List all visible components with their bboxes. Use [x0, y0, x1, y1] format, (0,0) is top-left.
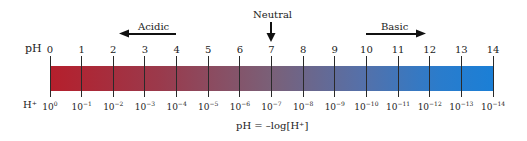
ph-value: 1: [78, 44, 84, 55]
tick-mark: [461, 56, 462, 97]
h-concentration-value: 10−13: [449, 100, 473, 112]
h-concentration-value: 10−1: [71, 100, 91, 112]
h-concentration-value: 10−10: [354, 100, 378, 112]
ph-value: 3: [142, 44, 148, 55]
ph-formula: pH = –log[H⁺]: [236, 121, 308, 131]
h-axis-label: H⁺: [23, 100, 37, 110]
ph-value: 14: [487, 44, 500, 55]
h-concentration-value: 10−8: [293, 100, 313, 112]
tick-mark: [239, 56, 240, 97]
tick-mark: [334, 56, 335, 97]
ph-value: 9: [332, 44, 338, 55]
arrow-left-icon: [119, 29, 129, 38]
ph-value: 12: [423, 44, 436, 55]
ph-value: 13: [455, 44, 468, 55]
h-concentration-value: 10−6: [230, 100, 250, 112]
tick-mark: [208, 56, 209, 97]
h-concentration-value: 10−9: [325, 100, 345, 112]
ph-value: 8: [300, 44, 306, 55]
h-concentration-value: 10−11: [386, 100, 410, 112]
h-concentration-value: 100: [42, 100, 57, 112]
basic-arrow-line: [366, 33, 418, 35]
ph-value: 6: [237, 44, 243, 55]
ph-value: 7: [268, 44, 274, 55]
ph-value: 2: [110, 44, 116, 55]
acidic-label: Acidic: [138, 22, 169, 32]
ph-axis-label: pH: [25, 44, 42, 54]
neutral-label: Neutral: [253, 10, 292, 20]
h-concentration-value: 10−4: [166, 100, 186, 112]
ph-value: 10: [360, 44, 373, 55]
h-concentration-value: 10−14: [481, 100, 505, 112]
tick-mark: [303, 56, 304, 97]
h-concentration-value: 10−3: [135, 100, 155, 112]
tick-mark: [144, 56, 145, 97]
tick-mark: [113, 56, 114, 97]
tick-mark: [81, 56, 82, 97]
ph-value: 0: [47, 44, 53, 55]
tick-mark: [50, 56, 51, 97]
h-concentration-value: 10−7: [261, 100, 281, 112]
acidic-arrow-line: [126, 33, 176, 35]
basic-label: Basic: [381, 22, 408, 32]
ph-value: 5: [205, 44, 211, 55]
arrow-right-icon: [416, 29, 426, 38]
arrow-down-icon: [266, 33, 276, 42]
tick-mark: [176, 56, 177, 97]
tick-mark: [429, 56, 430, 97]
h-concentration-value: 10−5: [198, 100, 218, 112]
tick-mark: [366, 56, 367, 97]
ph-value: 11: [392, 44, 405, 55]
h-concentration-value: 10−2: [103, 100, 123, 112]
tick-mark: [493, 56, 494, 97]
ph-value: 4: [173, 44, 179, 55]
tick-mark: [271, 56, 272, 97]
h-concentration-value: 10−12: [418, 100, 442, 112]
tick-mark: [398, 56, 399, 97]
